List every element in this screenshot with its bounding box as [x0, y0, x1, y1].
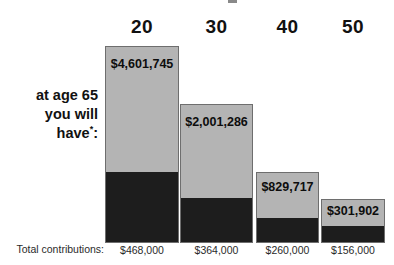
contribution-value-40: $260,000: [256, 243, 319, 257]
bar-contribution-segment-20: [106, 172, 178, 242]
age-header-30: 30: [180, 16, 253, 38]
bar-age-20[interactable]: [105, 46, 179, 243]
bar-contribution-segment-30: [181, 198, 252, 242]
bar-value-label-30: $2,001,286: [180, 115, 253, 129]
caption-line-3: have*:: [2, 124, 98, 143]
age-header-40: 40: [256, 16, 319, 38]
contribution-value-30: $364,000: [180, 243, 253, 257]
contribution-value-50: $156,000: [321, 243, 385, 257]
chart-caption: at age 65 you will have*:: [2, 86, 98, 143]
total-contributions-label: Total contributions:: [8, 243, 104, 255]
bar-value-label-50: $301,902: [321, 204, 385, 218]
stacked-bar-chart: at age 65 you will have*: 20304050 $4,60…: [0, 0, 394, 265]
caption-line-3-text: have: [57, 125, 90, 141]
caption-line-1: at age 65: [2, 86, 98, 105]
bar-contribution-segment-40: [257, 218, 318, 242]
caption-line-2: you will: [2, 105, 98, 124]
bar-value-label-20: $4,601,745: [105, 57, 179, 71]
contribution-value-20: $468,000: [105, 243, 179, 257]
age-header-20: 20: [105, 16, 179, 38]
age-header-50: 50: [321, 16, 385, 38]
caption-colon: :: [93, 125, 98, 141]
bar-contribution-segment-50: [322, 226, 384, 242]
bar-value-label-40: $829,717: [256, 180, 319, 194]
cropped-title-artifact: [228, 0, 237, 3]
